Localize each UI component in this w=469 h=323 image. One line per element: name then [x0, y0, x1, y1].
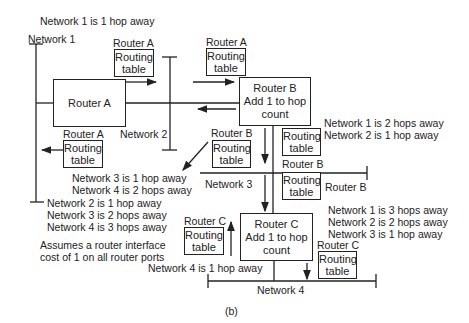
routing-table-c-left: Routing table	[184, 227, 224, 255]
router-c-box: Router C Add 1 to hop count	[240, 213, 313, 261]
router-a-table-label-3: Router A	[63, 128, 104, 140]
routing-table-text: Routing	[283, 174, 320, 186]
router-b-title: Router B	[253, 82, 296, 95]
router-b-table-label-2: Router B	[282, 158, 323, 170]
message-line: Network 1 is 2 hops away	[324, 117, 444, 129]
routing-table-a-left: Routing table	[63, 140, 103, 168]
router-c-table-label: Router C	[184, 215, 226, 227]
routing-table-text: Routing	[115, 51, 153, 63]
message-line: Network 3 is 2 hops away	[47, 209, 167, 221]
router-a-title: Router A	[68, 97, 111, 110]
network-2-label: Network 2	[120, 128, 167, 140]
routing-table-text: table	[64, 154, 102, 166]
routing-table-text: Routing	[213, 142, 250, 154]
router-c-title: Router C	[254, 218, 298, 231]
routing-table-text: Routing	[185, 229, 223, 241]
routing-table-text: table	[283, 186, 320, 198]
routing-table-text: table	[185, 241, 223, 253]
routing-table-text: table	[319, 265, 356, 277]
network-3-label: Network 3	[205, 178, 252, 190]
routing-table-text: Routing	[319, 253, 356, 265]
routing-table-text: Routing	[283, 130, 320, 142]
assumption-line: cost of 1 on all router ports	[40, 251, 165, 263]
message-from-b-left: Network 3 is 1 hop away Network 4 is 2 h…	[72, 172, 192, 196]
router-c-action-2: count	[263, 244, 290, 257]
router-b-table-label: Router B	[211, 127, 252, 139]
message-line: Network 4 is 3 hops away	[47, 221, 167, 233]
router-a-table-label: Router A	[113, 37, 154, 49]
assumption-note: Assumes a router interface cost of 1 on …	[40, 239, 165, 263]
routing-table-text: Routing	[207, 50, 245, 62]
router-b-action: Add 1 to hop	[244, 95, 306, 108]
message-from-c-right: Network 1 is 3 hops away Network 2 is 2 …	[328, 204, 448, 240]
network-4-label: Network 4	[257, 284, 304, 296]
message-from-c-left: Network 4 is 1 hop away	[148, 262, 262, 274]
routing-diagram: Network 1 is 1 hop away Network 1 Router…	[0, 0, 469, 323]
routing-table-b-lower: Routing table	[282, 172, 321, 200]
routing-table-text: table	[213, 154, 250, 166]
router-b-box: Router B Add 1 to hop count	[239, 77, 311, 126]
message-line: Network 1 is 3 hops away	[328, 204, 448, 216]
routing-table-text: table	[207, 62, 245, 74]
message-line: Network 2 is 1 hop away	[324, 129, 444, 141]
figure-caption: (b)	[225, 305, 238, 317]
router-c-action: Add 1 to hop	[245, 231, 307, 244]
routing-table-a-top-right: Routing table	[206, 48, 246, 76]
routing-table-text: Routing	[64, 142, 102, 154]
routing-table-text: table	[115, 63, 153, 75]
routing-table-c-right: Routing table	[318, 251, 357, 279]
routing-table-a-top: Routing table	[114, 49, 154, 77]
message-from-b-right: Network 1 is 2 hops away Network 2 is 1 …	[324, 117, 444, 141]
routing-table-b-right: Routing table	[282, 128, 321, 156]
routing-table-b-left: Routing table	[212, 140, 251, 168]
message-line: Network 2 is 2 hops away	[328, 216, 448, 228]
routing-table-text: table	[283, 142, 320, 154]
router-a-table-label-2: Router A	[206, 36, 247, 48]
message-line: Network 4 is 2 hops away	[72, 184, 192, 196]
router-b-action-2: count	[262, 108, 289, 121]
message-from-a-left: Network 2 is 1 hop away Network 3 is 2 h…	[47, 197, 167, 233]
network-1-label: Network 1	[28, 33, 75, 45]
router-a-box: Router A	[53, 79, 126, 127]
router-b-table-label-3: Router B	[325, 181, 366, 193]
assumption-line: Assumes a router interface	[40, 239, 165, 251]
router-c-table-label-2: Router C	[317, 239, 359, 251]
message-line: Network 3 is 1 hop away	[72, 172, 192, 184]
top-note: Network 1 is 1 hop away	[40, 15, 154, 27]
message-line: Network 2 is 1 hop away	[47, 197, 167, 209]
